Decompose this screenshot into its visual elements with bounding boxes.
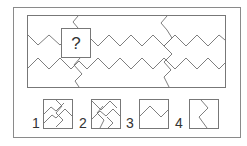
option-2[interactable]: 2 xyxy=(79,100,121,132)
option-2-box[interactable] xyxy=(92,100,121,129)
lower-zigzag xyxy=(28,58,225,69)
option-3-label: 3 xyxy=(126,115,134,131)
option-1-zigzag-b xyxy=(56,100,63,127)
option-4[interactable]: 4 xyxy=(175,100,219,132)
option-1-label: 1 xyxy=(32,115,40,131)
option-2-zigzag-b xyxy=(92,109,120,119)
option-4-zigzag xyxy=(199,100,208,128)
option-3-zigzag xyxy=(140,106,168,117)
left-vertical-zigzag-top xyxy=(73,16,78,28)
option-4-label: 4 xyxy=(175,115,183,131)
puzzle-figure: ? 1 2 3 4 xyxy=(0,0,247,146)
option-2-zigzag-d xyxy=(107,117,113,128)
option-3[interactable]: 3 xyxy=(126,100,169,132)
option-1-box[interactable] xyxy=(44,100,73,129)
right-vertical-zigzag xyxy=(161,16,172,87)
option-2-label: 2 xyxy=(79,115,87,131)
puzzle-panel-border xyxy=(28,16,226,88)
question-mark: ? xyxy=(71,34,80,53)
upper-zigzag-left xyxy=(28,35,62,45)
option-1[interactable]: 1 xyxy=(32,100,73,132)
upper-zigzag-right xyxy=(90,35,225,46)
missing-piece-box: ? xyxy=(62,29,91,58)
puzzle-panel xyxy=(28,16,226,88)
option-2-zigzag-c xyxy=(97,106,104,128)
